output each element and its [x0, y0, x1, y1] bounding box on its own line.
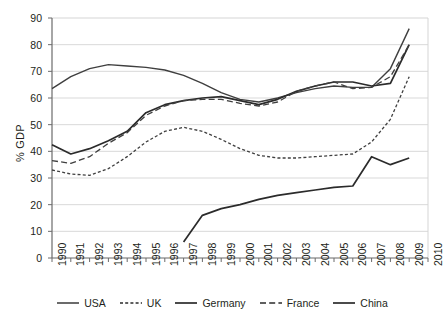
legend-swatch-icon — [260, 299, 282, 307]
series-line-china — [184, 157, 410, 242]
x-axis-tick-label: 2008 — [395, 243, 405, 266]
y-axis-title: % GDP — [14, 124, 26, 162]
legend-swatch-icon — [333, 299, 355, 307]
series-line-uk — [52, 77, 409, 176]
x-axis-tick-label: 1996 — [169, 243, 179, 266]
x-axis-tick-label: 2004 — [320, 243, 330, 266]
x-axis-tick-label: 2003 — [301, 243, 311, 266]
grid-lines — [52, 18, 428, 231]
x-axis-tick-label: 1995 — [151, 243, 161, 266]
y-axis-tick-label: 10 — [16, 226, 42, 236]
y-axis-tick-label: 40 — [16, 146, 42, 156]
series-line-germany — [52, 45, 409, 154]
legend-label: Germany — [202, 297, 245, 309]
x-axis-tick-label: 1994 — [132, 243, 142, 266]
x-axis-tick-label: 2000 — [245, 243, 255, 266]
axis-lines — [48, 18, 428, 262]
legend-label: UK — [147, 297, 162, 309]
x-axis-tick-label: 1997 — [188, 243, 198, 266]
x-axis-tick-label: 1991 — [75, 243, 85, 266]
x-axis-tick-label: 1990 — [57, 243, 67, 266]
y-axis-tick-label: 20 — [16, 200, 42, 210]
legend-swatch-icon — [120, 299, 142, 307]
legend-label: USA — [84, 297, 106, 309]
legend-item-usa: USA — [57, 297, 106, 309]
y-axis-tick-label: 30 — [16, 173, 42, 183]
legend-item-uk: UK — [120, 297, 162, 309]
series-line-usa — [52, 29, 409, 102]
legend-swatch-icon — [57, 299, 79, 307]
chart-legend: USAUKGermanyFranceChina — [0, 297, 445, 309]
gdp-line-chart: % GDP 0102030405060708090 19901991199219… — [0, 0, 445, 325]
legend-label: France — [287, 297, 320, 309]
series-line-france — [52, 45, 409, 164]
legend-label: China — [360, 297, 387, 309]
legend-item-france: France — [260, 297, 320, 309]
y-axis-tick-label: 50 — [16, 120, 42, 130]
x-axis-tick-label: 2007 — [376, 243, 386, 266]
x-axis-tick-label: 2005 — [339, 243, 349, 266]
legend-swatch-icon — [175, 299, 197, 307]
x-axis-tick-label: 2006 — [357, 243, 367, 266]
x-axis-tick-label: 1999 — [226, 243, 236, 266]
plot-area — [0, 0, 445, 325]
y-axis-tick-label: 0 — [16, 253, 42, 263]
x-axis-tick-label: 1993 — [113, 243, 123, 266]
y-axis-tick-label: 60 — [16, 93, 42, 103]
y-axis-tick-label: 90 — [16, 13, 42, 23]
y-axis-tick-label: 80 — [16, 40, 42, 50]
x-axis-tick-label: 2001 — [263, 243, 273, 266]
legend-item-china: China — [333, 297, 387, 309]
x-axis-tick-label: 1998 — [207, 243, 217, 266]
y-axis-tick-label: 70 — [16, 66, 42, 76]
legend-item-germany: Germany — [175, 297, 245, 309]
x-axis-tick-label: 2009 — [414, 243, 424, 266]
x-axis-tick-label: 2002 — [282, 243, 292, 266]
x-axis-tick-label: 1992 — [94, 243, 104, 266]
x-axis-tick-label: 2010 — [433, 243, 443, 266]
data-series-layer — [52, 29, 409, 242]
